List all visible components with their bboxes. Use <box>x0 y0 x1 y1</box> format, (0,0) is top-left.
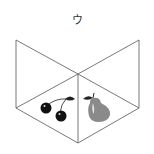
box-edge-center-to-right-bottom <box>78 74 139 108</box>
box-edge-top-left <box>16 40 78 74</box>
box-edge-top-right <box>78 40 139 74</box>
cherries-icon <box>41 97 76 122</box>
box-diagram <box>0 0 154 154</box>
pear-icon <box>83 93 110 122</box>
